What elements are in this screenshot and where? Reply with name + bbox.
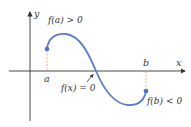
- b-label: b: [143, 57, 149, 68]
- y-axis-label: y: [33, 8, 40, 19]
- root-annotation: f(x) = 0: [60, 83, 96, 93]
- fa-annotation: f(a) > 0: [47, 15, 83, 25]
- point-fa: [45, 47, 50, 52]
- function-diagram: y x a b f(a) > 0 f(x) = 0 f(b) < 0: [0, 0, 191, 127]
- x-axis-label: x: [176, 57, 182, 68]
- root-pointer-arrow: [87, 75, 93, 83]
- fb-annotation: f(b) < 0: [146, 96, 182, 106]
- a-label: a: [44, 73, 50, 84]
- function-curve: [47, 34, 146, 105]
- point-fb: [144, 89, 149, 94]
